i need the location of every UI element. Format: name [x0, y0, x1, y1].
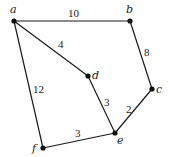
node-label-e: e: [117, 134, 124, 147]
node-label-b: b: [126, 3, 133, 16]
node-label-c: c: [156, 83, 162, 96]
node-label-f: f: [31, 142, 38, 155]
node-b: [127, 18, 132, 23]
node-d: [85, 73, 90, 78]
edge-weight-f-e: 3: [75, 127, 81, 139]
edge-weight-b-c: 8: [144, 46, 150, 58]
node-label-d: d: [92, 69, 99, 82]
edge-c-e: [115, 89, 152, 133]
edge-d-e: [88, 76, 115, 133]
edge-weight-a-f: 12: [33, 83, 44, 95]
weighted-graph-diagram: 104128323 abcdef: [0, 0, 169, 157]
edge-weight-a-d: 4: [58, 38, 64, 50]
node-c: [149, 86, 154, 91]
node-a: [11, 18, 16, 23]
graph-canvas: 104128323 abcdef: [0, 0, 169, 157]
edge-weight-d-e: 3: [104, 96, 110, 108]
node-f: [40, 145, 45, 150]
edge-weight-c-e: 2: [126, 103, 132, 115]
edge-weight-a-b: 10: [68, 7, 80, 19]
node-labels-layer: abcdef: [10, 3, 162, 155]
node-label-a: a: [10, 3, 17, 16]
